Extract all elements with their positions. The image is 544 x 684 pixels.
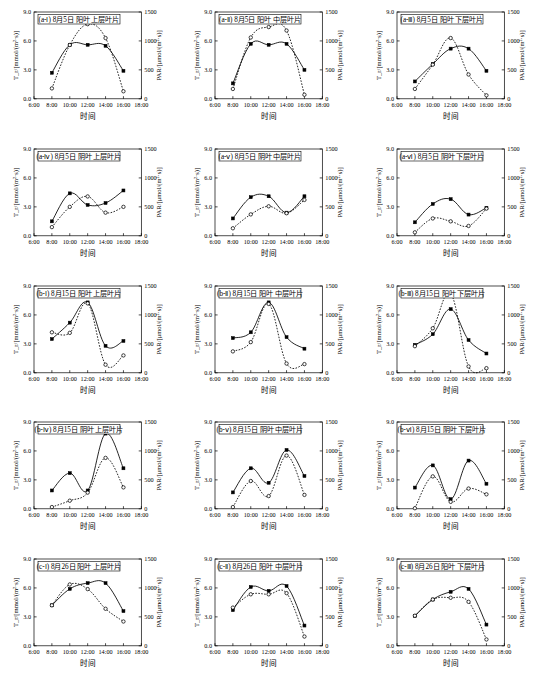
y-left-tick-label: 6.0 bbox=[23, 448, 31, 455]
data-point-square bbox=[413, 486, 416, 489]
x-tick-label: 16:00 bbox=[116, 511, 130, 518]
y-left-tick-label: 6.0 bbox=[386, 584, 394, 591]
series-line-tr bbox=[233, 450, 305, 492]
x-tick-label: 10:00 bbox=[63, 511, 77, 518]
x-tick-label: 6:00 bbox=[28, 511, 39, 518]
y-left-tick-label: 9.0 bbox=[23, 282, 31, 289]
series-line-tr bbox=[233, 302, 305, 348]
series-line-par bbox=[415, 292, 487, 372]
y-right-axis-label: PAR/[μmol/(m²·s)] bbox=[518, 167, 526, 217]
data-point-circle bbox=[249, 480, 252, 483]
data-point-circle bbox=[467, 487, 470, 490]
y-right-tick-label: 500 bbox=[507, 613, 516, 620]
data-point-square bbox=[449, 197, 452, 200]
x-axis-label: 时间 bbox=[261, 522, 277, 532]
data-point-square bbox=[250, 467, 253, 470]
x-tick-label: 8:00 bbox=[228, 101, 239, 108]
y-left-tick-label: 6.0 bbox=[205, 174, 213, 181]
y-right-tick-label: 1500 bbox=[326, 145, 338, 152]
x-tick-label: 12:00 bbox=[443, 511, 457, 518]
plot-frame bbox=[34, 422, 141, 509]
x-tick-label: 18:00 bbox=[497, 101, 511, 108]
data-point-circle bbox=[267, 593, 270, 596]
chart-panel: 0.03.06.09.00500100015006:008:0010:0012:… bbox=[0, 0, 181, 137]
y-left-tick-label: 3.0 bbox=[23, 66, 31, 73]
x-tick-label: 16:00 bbox=[116, 101, 130, 108]
y-left-tick-label: 3.0 bbox=[23, 613, 31, 620]
y-right-axis-label: PAR/[μmol/(m²·s)] bbox=[337, 30, 345, 80]
series-line-tr bbox=[415, 198, 487, 222]
data-point-circle bbox=[50, 604, 53, 607]
y-left-tick-label: 9.0 bbox=[386, 145, 394, 152]
data-point-circle bbox=[431, 63, 434, 66]
y-left-axis-label: T_r/[mmol/(m²·s)] bbox=[12, 578, 20, 627]
y-left-axis-label: T_r/[mmol/(m²·s)] bbox=[193, 168, 201, 217]
y-right-tick-label: 500 bbox=[507, 203, 516, 210]
x-tick-label: 18:00 bbox=[134, 511, 148, 518]
chart-panel: 0.03.06.09.00500100015006:008:0010:0012:… bbox=[363, 274, 544, 411]
x-axis-label: 时间 bbox=[80, 111, 96, 121]
x-tick-label: 8:00 bbox=[228, 511, 239, 518]
data-point-circle bbox=[431, 326, 434, 329]
x-axis-label: 时间 bbox=[442, 111, 458, 121]
chart-panel: 0.03.06.09.00500100015006:008:0010:0012:… bbox=[363, 0, 544, 137]
chart-panel: 0.03.06.09.00500100015006:008:0010:0012:… bbox=[363, 137, 544, 274]
data-point-square bbox=[68, 192, 71, 195]
series-line-par bbox=[52, 302, 124, 367]
x-tick-label: 16:00 bbox=[298, 101, 312, 108]
x-tick-label: 14:00 bbox=[98, 238, 112, 245]
data-point-square bbox=[232, 217, 235, 220]
series-line-par bbox=[52, 458, 124, 507]
x-tick-label: 8:00 bbox=[46, 101, 57, 108]
panel-title: (b-ⅴ) 8月15日 阴叶 中层叶片 bbox=[217, 425, 304, 434]
data-point-square bbox=[303, 347, 306, 350]
x-tick-label: 10:00 bbox=[63, 374, 77, 381]
data-point-circle bbox=[104, 457, 107, 460]
data-point-circle bbox=[232, 87, 235, 90]
data-point-square bbox=[86, 43, 89, 46]
series-line-par bbox=[52, 24, 124, 91]
x-axis-label: 时间 bbox=[80, 658, 96, 668]
data-point-square bbox=[122, 467, 125, 470]
chart-panel: 0.03.06.09.00500100015006:008:0010:0012:… bbox=[181, 137, 362, 274]
data-point-square bbox=[68, 472, 71, 475]
data-point-square bbox=[250, 586, 253, 589]
x-tick-label: 14:00 bbox=[98, 101, 112, 108]
data-point-circle bbox=[449, 501, 452, 504]
y-left-tick-label: 3.0 bbox=[205, 66, 213, 73]
figure-grid: 0.03.06.09.00500100015006:008:0010:0012:… bbox=[0, 0, 544, 684]
x-tick-label: 6:00 bbox=[210, 238, 221, 245]
data-point-circle bbox=[50, 506, 53, 509]
x-tick-label: 12:00 bbox=[262, 374, 276, 381]
y-left-tick-label: 6.0 bbox=[205, 311, 213, 318]
y-right-tick-label: 500 bbox=[326, 66, 335, 73]
plot-frame bbox=[34, 559, 141, 646]
y-left-tick-label: 6.0 bbox=[205, 37, 213, 44]
data-point-circle bbox=[303, 93, 306, 96]
y-right-tick-label: 1500 bbox=[326, 8, 338, 15]
y-left-tick-label: 6.0 bbox=[386, 311, 394, 318]
y-left-tick-label: 6.0 bbox=[23, 174, 31, 181]
plot-frame bbox=[397, 12, 504, 99]
data-point-circle bbox=[86, 301, 89, 304]
x-tick-label: 6:00 bbox=[28, 238, 39, 245]
panel-title: (a-ⅰ) 8月5日 阳叶 上层叶片 bbox=[39, 15, 120, 24]
plot-frame bbox=[215, 559, 322, 646]
series-line-par bbox=[233, 590, 305, 637]
data-point-circle bbox=[484, 493, 487, 496]
data-point-circle bbox=[249, 593, 252, 596]
y-right-tick-label: 1500 bbox=[507, 555, 519, 562]
y-right-tick-label: 1500 bbox=[144, 8, 156, 15]
y-left-tick-label: 9.0 bbox=[205, 555, 213, 562]
y-right-axis-label: PAR/[μmol/(m²·s)] bbox=[518, 30, 526, 80]
y-left-tick-label: 9.0 bbox=[23, 555, 31, 562]
data-point-circle bbox=[86, 491, 89, 494]
chart-panel: 0.03.06.09.00500100015006:008:0010:0012:… bbox=[0, 410, 181, 547]
y-left-axis-label: T_r/[mmol/(m²·s)] bbox=[193, 441, 201, 490]
data-point-circle bbox=[68, 43, 71, 46]
y-right-tick-label: 500 bbox=[507, 66, 516, 73]
x-tick-label: 14:00 bbox=[280, 101, 294, 108]
x-tick-label: 14:00 bbox=[461, 101, 475, 108]
data-point-circle bbox=[484, 207, 487, 210]
data-point-square bbox=[50, 337, 53, 340]
